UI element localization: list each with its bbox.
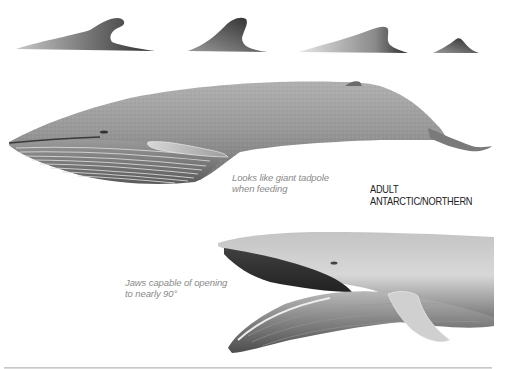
- eye: [331, 261, 338, 264]
- jaws-caption-line2: to nearly 90°: [125, 288, 227, 299]
- tadpole-caption: Looks like giant tadpole when feeding: [232, 172, 329, 194]
- tadpole-caption-line1: Looks like giant tadpole: [232, 172, 329, 183]
- jaws-caption-line1: Jaws capable of opening: [125, 277, 227, 288]
- jaws-caption: Jaws capable of opening to nearly 90°: [125, 277, 227, 299]
- adult-label: ADULT ANTARCTIC/NORTHERN: [370, 183, 493, 207]
- open-jaw-head: [218, 232, 494, 353]
- tadpole-caption-line2: when feeding: [232, 183, 329, 194]
